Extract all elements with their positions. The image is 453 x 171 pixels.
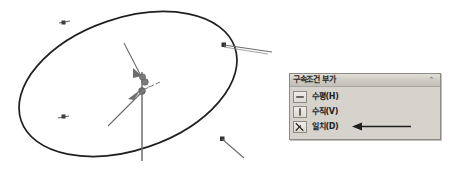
vertical-constraint-icon[interactable] [293,106,307,118]
leader-line-lower [108,92,142,126]
snap-arrow-lower [128,90,140,100]
constraint-row-horizontal[interactable]: 수평(H) [293,89,440,104]
center-node-mid [142,79,149,86]
panel-body: 수평(H) 수직(V) 일치(D) [290,87,440,134]
constraint-label-vertical: 수직(V) [312,108,338,116]
ellipse-shape[interactable] [0,0,256,171]
callout-arrow-icon [351,122,413,131]
constraint-panel[interactable]: 구속조건 부가 ⌃ 수평(H) 수직(V) [289,73,441,140]
screenshot-root: 구속조건 부가 ⌃ 수평(H) 수직(V) [0,0,453,171]
ellipse-node-bottom-left[interactable] [58,115,69,119]
constraint-label-coincident: 일치(D) [312,123,338,131]
constraint-label-horizontal: 수평(H) [312,93,339,101]
panel-titlebar[interactable]: 구속조건 부가 ⌃ [290,74,440,87]
constraint-row-vertical[interactable]: 수직(V) [293,104,440,119]
leader-line-bottom-right [222,139,244,158]
coincident-constraint-icon[interactable] [293,121,307,133]
horizontal-constraint-icon[interactable] [293,91,307,103]
ellipse-node-top-left[interactable] [59,21,70,25]
ellipse-node-bottom-right[interactable] [220,137,244,159]
panel-title: 구속조건 부가 [293,76,336,84]
chevron-up-icon[interactable]: ⌃ [427,76,436,85]
ellipse-node-right[interactable] [222,43,273,55]
constraint-row-coincident[interactable]: 일치(D) [293,119,440,134]
